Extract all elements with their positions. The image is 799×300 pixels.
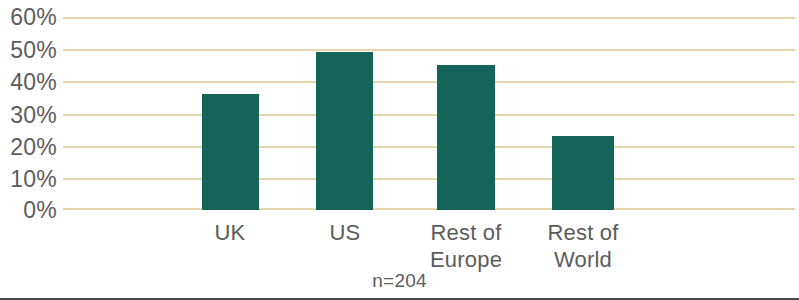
gridline-0 [63,208,795,210]
x-label-us: US [285,219,405,246]
y-tick-label-60: 60% [0,6,57,29]
x-label-rest-of-europe: Rest of Europe [406,219,526,273]
bar-us [316,52,373,210]
gridline-50 [63,49,795,51]
gridline-40 [63,81,795,83]
plot-area [63,17,795,210]
gridline-10 [63,178,795,180]
gridline-30 [63,114,795,116]
sample-size-footnote: n=204 [0,270,799,292]
gridline-20 [63,146,795,148]
y-tick-label-10: 10% [0,168,57,191]
bar-chart: 60% 50% 40% 30% 20% 10% 0% UK US Rest of… [0,0,799,300]
bar-rest-of-world [552,136,614,210]
x-label-uk: UK [170,219,290,246]
bar-uk [202,94,259,210]
y-tick-label-30: 30% [0,104,57,127]
y-tick-label-0: 0% [0,199,57,222]
x-label-rest-of-world: Rest of World [523,219,643,273]
y-tick-label-50: 50% [0,39,57,62]
y-tick-label-20: 20% [0,136,57,159]
gridline-60 [63,17,795,19]
bar-rest-of-europe [437,65,495,210]
y-tick-label-40: 40% [0,71,57,94]
